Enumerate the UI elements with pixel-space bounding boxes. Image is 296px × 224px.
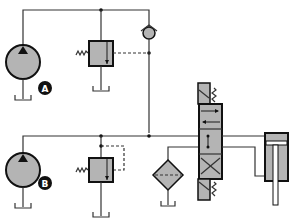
junction-dot [147,134,151,138]
hydraulic-diagram: A [0,0,296,224]
pump-a-label-text: A [42,84,49,94]
relief-valve-a-body [89,41,113,66]
pump-b [6,153,40,208]
pump-b-label: B [38,176,52,190]
filter [153,147,199,206]
pump-b-label-text: B [42,179,49,189]
spring-icon [212,88,216,102]
pump-a-label: A [38,81,52,95]
piston-rod [273,145,278,205]
spring-icon [212,182,216,196]
spring-icon [76,51,88,55]
piston [266,141,287,145]
valve-body [199,104,222,179]
relief-valve-b [76,136,124,217]
directional-control-valve [198,83,222,200]
pump-a-circuit: A [6,8,157,133]
pressure-line-a [23,10,149,45]
relief-valve-b-body [89,158,113,182]
pressure-line-b [23,136,199,153]
cylinder-line-b [222,147,265,176]
spring-icon [76,168,88,172]
relief-valve-a [76,10,151,91]
hydraulic-cylinder [222,133,288,205]
pump-a [6,45,40,100]
check-valve [141,25,157,133]
